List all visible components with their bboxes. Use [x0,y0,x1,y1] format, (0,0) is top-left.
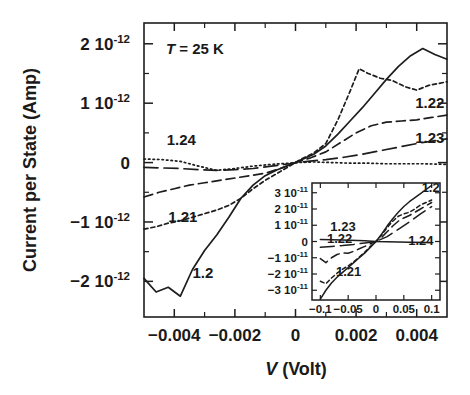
y-tick-label: 0 [121,154,130,173]
x-tick-label: 0.002 [335,326,378,345]
inset-curve-label-1-21: 1.21 [336,264,361,279]
inset-y-tick-label: −3 10-11 [268,282,309,296]
inset-x-tick-label: −0.1 [309,303,332,315]
y-axis-tick-labels: 2 10-121 10-120−1 10-12−2 10-12 [70,33,130,292]
y-tick-label: −1 10-12 [70,211,130,232]
y-tick-label: 2 10-12 [80,33,130,54]
temperature-value: = 25 K [175,40,224,57]
curve-label-1-22: 1.22 [415,94,444,111]
curve-label-1-24: 1.24 [167,131,197,148]
x-tick-label: 0 [291,326,300,345]
inset-x-tick-label: −0.05 [334,303,364,315]
x-tick-label: −0.004 [148,326,201,345]
curve-label-1-2: 1.2 [192,264,213,281]
x-axis-title-rest: (Volt) [277,359,327,379]
inset-x-tick-label: 0.05 [393,303,416,315]
inset-plot: 3 10-112 10-111 10-110−1 10-11−2 10-11−3… [268,180,440,315]
inset-y-tick-label: 2 10-11 [274,201,308,215]
y-tick-label: −2 10-12 [70,270,130,291]
x-tick-label: 0.004 [395,326,438,345]
inset-y-tick-label: 3 10-11 [274,185,308,199]
x-axis-tick-labels: −0.004−0.00200.0020.004 [148,326,438,345]
x-tick-label: −0.002 [209,326,261,345]
inset-y-tick-label: 1 10-11 [274,217,308,231]
curve-label-1-21: 1.21 [168,208,197,225]
temperature-annotation: T = 25 K [166,40,224,57]
inset-y-tick-label: 0 [302,236,308,248]
inset-curve-label-1-24: 1.24 [408,233,434,248]
y-tick-label: 1 10-12 [80,92,130,113]
inset-x-tick-label: 0.1 [424,303,441,315]
inset-x-tick-labels: −0.1−0.0500.050.1 [309,303,440,315]
inset-x-tick-label: 0 [373,303,379,315]
x-axis-title: V (Volt) [265,359,327,379]
inset-y-tick-label: −1 10-11 [268,250,309,264]
curve-label-1-23: 1.23 [415,129,444,146]
y-axis-title: Current per State (Amp) [20,68,40,272]
figure-container: 2 10-121 10-120−1 10-12−2 10-12 −0.004−0… [0,0,470,395]
inset-curve-label-1-22: 1.22 [327,231,352,246]
inset-y-tick-label: −2 10-11 [268,266,309,280]
inset-y-tick-labels: 3 10-112 10-111 10-110−1 10-11−2 10-11−3… [268,185,309,297]
iv-characteristic-plot: 2 10-121 10-120−1 10-12−2 10-12 −0.004−0… [0,0,470,395]
inset-curve-label-1-2: 1.2 [422,180,440,195]
